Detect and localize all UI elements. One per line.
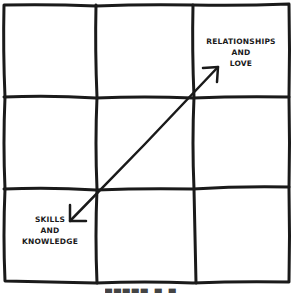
grid-line-v1	[96, 5, 97, 283]
caption-partial: ▀▀▀▀▀ ▀ ▀	[105, 287, 195, 293]
label-line: SKILLS	[6, 214, 94, 225]
label-line: KNOWLEDGE	[6, 236, 94, 247]
label-line: AND	[6, 225, 94, 236]
grid-line-h1	[4, 96, 289, 98]
label-line: LOVE	[193, 58, 289, 69]
grid-line-h2	[4, 187, 289, 190]
label-relationships-and-love: RELATIONSHIPS AND LOVE	[193, 36, 289, 69]
label-skills-and-knowledge: SKILLS AND KNOWLEDGE	[6, 214, 94, 247]
label-line: RELATIONSHIPS	[193, 36, 289, 47]
double-arrow-icon	[70, 67, 218, 221]
label-line: AND	[193, 47, 289, 58]
